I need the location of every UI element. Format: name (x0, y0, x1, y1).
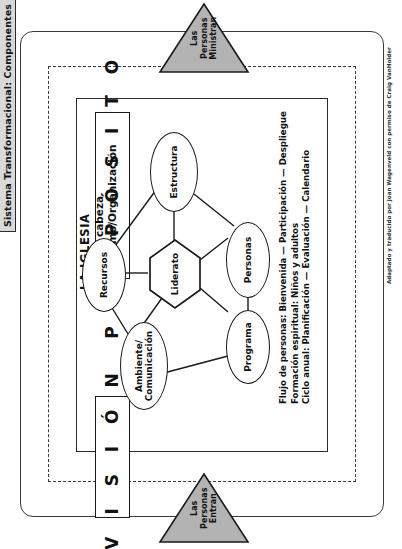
node-programa[interactable]: Programa (226, 310, 270, 384)
node-liderato[interactable]: Liderato (148, 238, 202, 310)
node-estructura[interactable]: Estructura (150, 132, 198, 212)
triangle-bottom-line2: Personas (199, 476, 209, 540)
triangle-bottom-label: Las Personas Entran (190, 476, 219, 540)
page-title-bar: Sistema Transformacional: Componentes In… (0, 0, 16, 232)
node-ambiente-comunicacion[interactable]: Ambiente/ Comunicación (120, 322, 168, 410)
triangle-top-line1: Las (190, 6, 200, 70)
node-personas-label: Personas (243, 237, 253, 284)
node-recursos[interactable]: Recursos (82, 238, 126, 312)
node-ambiente-line2: Comunicación (144, 331, 154, 401)
credit-text: Adaptado y traducido por Joan Wagenveld … (386, 47, 392, 284)
triangle-top-label: Las Personas Ministran (190, 6, 219, 70)
node-personas[interactable]: Personas (226, 222, 270, 298)
node-estructura-label: Estructura (169, 145, 179, 198)
triangle-bottom-line3: Entran (209, 476, 219, 540)
node-diagram: Estructura Personas Recursos Programa Am… (76, 98, 328, 452)
page-title: Sistema Transformacional: Componentes In… (2, 0, 13, 227)
triangle-top-line3: Ministran (209, 6, 219, 70)
triangle-personas-entran: Las Personas Entran (158, 472, 250, 544)
node-programa-label: Programa (243, 322, 253, 372)
node-ambiente-line1: Ambiente/ (134, 340, 144, 392)
triangle-personas-ministran: Las Personas Ministran (158, 2, 250, 74)
node-recursos-label: Recursos (99, 252, 109, 298)
triangle-bottom-line1: Las (190, 476, 200, 540)
node-liderato-label: Liderato (170, 253, 180, 295)
triangle-top-line2: Personas (199, 6, 209, 70)
node-ambiente-label: Ambiente/ Comunicación (134, 331, 154, 401)
